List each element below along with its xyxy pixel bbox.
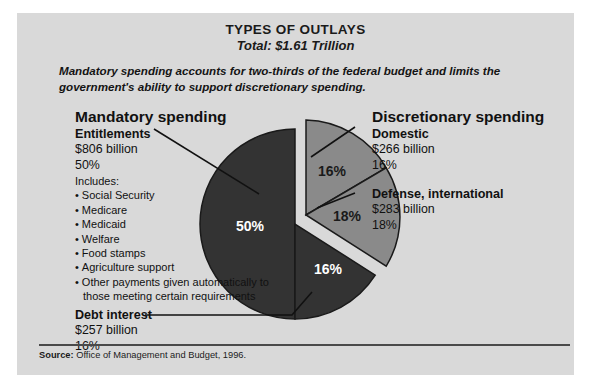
pie-label-debt-interest: 16% — [314, 261, 343, 277]
pie-label-defense-international: 18% — [333, 208, 362, 224]
list-item: •Medicaid — [75, 217, 275, 231]
pie-label-domestic: 16% — [318, 163, 347, 179]
footer-divider — [39, 344, 570, 346]
domestic-percent: 16% — [372, 158, 574, 174]
defense-amount: $283 billion — [372, 202, 574, 218]
list-item-label: Welfare — [82, 233, 120, 245]
list-item-label: Other payments given automatically to th… — [82, 276, 269, 302]
list-item-label: Food stamps — [82, 247, 146, 259]
chart-subtitle: Total: $1.61 Trillion — [17, 38, 574, 53]
bullet-icon: • — [75, 247, 79, 259]
list-item-label: Agriculture support — [82, 261, 174, 273]
list-item: •Food stamps — [75, 246, 275, 260]
domestic-label: Domestic — [372, 126, 574, 142]
source-note: Source: Office of Management and Budget,… — [39, 349, 539, 361]
entitlements-amount: $806 billion — [75, 142, 275, 158]
includes-label: Includes: — [75, 174, 275, 188]
list-item-label: Medicaid — [82, 218, 126, 230]
chart-lede: Mandatory spending accounts for two-thir… — [59, 63, 539, 94]
discretionary-section-heading: Discretionary spending — [372, 107, 574, 126]
discretionary-spending-block: Discretionary spending Domestic $266 bil… — [372, 107, 574, 233]
mandatory-section-heading: Mandatory spending — [75, 107, 275, 126]
bullet-icon: • — [75, 233, 79, 245]
source-label: Source: — [39, 350, 74, 360]
domestic-amount: $266 billion — [372, 142, 574, 158]
chart-title: TYPES OF OUTLAYS — [17, 22, 574, 37]
bullet-icon: • — [75, 261, 79, 273]
list-item: •Social Security — [75, 188, 275, 202]
list-item-label: Social Security — [82, 189, 155, 201]
defense-label: Defense, international — [372, 186, 574, 202]
list-item: •Other payments given automatically to t… — [75, 275, 275, 304]
list-item: •Agriculture support — [75, 260, 275, 274]
bullet-icon: • — [75, 218, 79, 230]
bullet-icon: • — [75, 204, 79, 216]
bullet-icon: • — [75, 276, 79, 288]
spacer — [372, 173, 574, 186]
list-item: •Medicare — [75, 203, 275, 217]
list-item-label: Medicare — [82, 204, 127, 216]
defense-percent: 18% — [372, 218, 574, 234]
debt-interest-block: Debt interest $257 billion 16% — [75, 307, 275, 354]
mandatory-spending-block: Mandatory spending Entitlements $806 bil… — [75, 107, 275, 304]
list-item: •Welfare — [75, 232, 275, 246]
entitlements-bullet-list: •Social Security •Medicare •Medicaid •We… — [75, 188, 275, 303]
debt-interest-amount: $257 billion — [75, 323, 275, 339]
entitlements-percent: 50% — [75, 158, 275, 174]
debt-interest-label: Debt interest — [75, 307, 275, 323]
infographic-panel: TYPES OF OUTLAYS Total: $1.61 Trillion M… — [17, 13, 574, 375]
entitlements-label: Entitlements — [75, 126, 275, 142]
bullet-icon: • — [75, 189, 79, 201]
source-text: Office of Management and Budget, 1996. — [76, 350, 246, 360]
